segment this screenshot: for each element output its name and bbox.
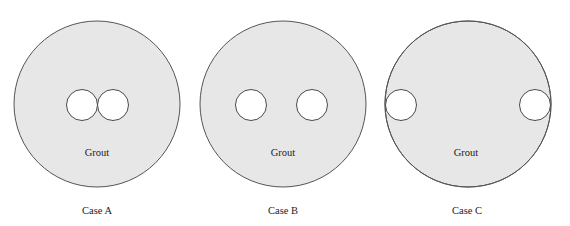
- hole-right: [297, 90, 328, 121]
- case-c: Grout Case C: [385, 21, 551, 216]
- hole-left: [67, 90, 98, 121]
- grout-label: Grout: [454, 147, 479, 158]
- hole-left: [236, 90, 267, 121]
- hole-right: [520, 90, 551, 121]
- case-b: Grout Case B: [200, 21, 366, 216]
- grout-label: Grout: [85, 147, 110, 158]
- grout-label: Grout: [271, 147, 296, 158]
- hole-right: [98, 90, 129, 121]
- grout-disc: [200, 21, 366, 187]
- case-a: Grout Case A: [14, 21, 180, 216]
- grout-cases-diagram: Grout Case A Grout Case B Grout Case C: [0, 0, 570, 226]
- case-caption: Case A: [82, 205, 112, 216]
- case-caption: Case B: [268, 205, 298, 216]
- case-caption: Case C: [452, 205, 482, 216]
- hole-left: [386, 90, 417, 121]
